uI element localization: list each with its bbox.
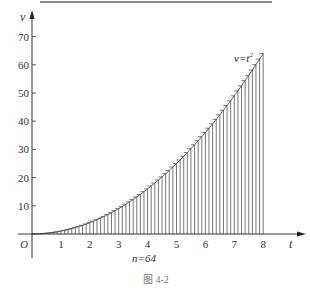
chart-figure: 10203040506070 12345678 v t O v=t2 n=64 … <box>0 0 310 299</box>
x-axis-label: t <box>289 237 293 251</box>
x-tick-label: 7 <box>232 238 238 250</box>
x-tick-label: 2 <box>87 238 93 250</box>
y-tick-label: 50 <box>18 87 30 99</box>
figure-caption: 图 4-2 <box>143 274 169 285</box>
y-tick-label: 60 <box>18 59 30 71</box>
curve-label-exponent: 2 <box>249 51 253 59</box>
y-axis-label: v <box>20 10 26 24</box>
origin-label: O <box>20 238 28 250</box>
x-axis-arrow-icon <box>297 232 306 237</box>
y-axis-arrow-icon <box>30 10 35 19</box>
curve-label: v=t2 <box>234 51 253 64</box>
x-tick-label: 8 <box>260 238 266 250</box>
y-tick-label: 20 <box>18 172 30 184</box>
x-tick-label: 1 <box>58 238 64 250</box>
x-tick-label: 5 <box>174 238 180 250</box>
x-tick-label: 6 <box>203 238 209 250</box>
y-tick-label: 70 <box>18 31 30 43</box>
y-tick-label: 10 <box>18 200 30 212</box>
y-tick-label: 30 <box>18 143 30 155</box>
curve-label-text: v=t <box>234 52 250 64</box>
x-tick-label: 3 <box>116 238 122 250</box>
y-ticks: 10203040506070 <box>18 31 36 212</box>
x-ticks: 12345678 <box>58 238 266 250</box>
n-annotation: n=64 <box>132 252 156 264</box>
x-tick-label: 4 <box>145 238 151 250</box>
riemann-bars <box>32 54 263 234</box>
y-tick-label: 40 <box>18 115 30 127</box>
